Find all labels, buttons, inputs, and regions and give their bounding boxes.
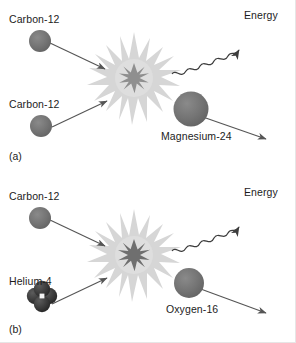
panel-b: Carbon-12 Helium-4 Oxygen-16 Energy (b): [0, 171, 296, 343]
panel-a-graphics: [0, 0, 296, 171]
label-energy-b: Energy: [244, 186, 278, 198]
panel-a: Carbon-12 Carbon-12 Magnesium-24 Energy …: [0, 0, 296, 171]
nucleus-carbon-12-top-a: [29, 30, 51, 52]
panel-tag-a: (a): [9, 150, 22, 162]
arrow-reactant-bottom-b: [52, 278, 107, 304]
label-magnesium-24-a: Magnesium-24: [161, 130, 232, 142]
label-helium-4-b: Helium-4: [9, 275, 52, 287]
label-carbon-12-bottom-a: Carbon-12: [9, 98, 60, 110]
nucleus-magnesium-24-a: [174, 92, 209, 127]
arrow-energy-b: [172, 227, 239, 251]
nucleus-oxygen-16-b: [174, 268, 204, 298]
label-oxygen-16-b: Oxygen-16: [166, 303, 218, 315]
arrow-reactant-bottom-a: [52, 101, 107, 127]
arrow-reactant-top-b: [50, 220, 105, 246]
label-energy-a: Energy: [244, 9, 278, 21]
nucleus-carbon-12-b: [29, 207, 51, 229]
fusion-figure: Carbon-12 Carbon-12 Magnesium-24 Energy …: [0, 0, 296, 343]
label-carbon-12-b: Carbon-12: [9, 190, 60, 202]
arrow-energy-a: [172, 50, 239, 74]
panel-tag-b: (b): [9, 323, 22, 335]
nucleus-carbon-12-bottom-a: [30, 115, 52, 137]
arrow-reactant-top-a: [50, 43, 105, 69]
label-carbon-12-top-a: Carbon-12: [9, 13, 60, 25]
